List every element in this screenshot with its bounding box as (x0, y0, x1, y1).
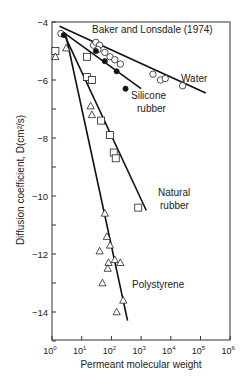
label-natural-rubber: rubber (160, 200, 190, 211)
data-point (111, 256, 118, 263)
data-point (162, 75, 168, 81)
data-point (87, 102, 94, 109)
data-point (106, 242, 113, 249)
y-axis-label: Diffusion coefficient, D(cm²/s) (15, 115, 26, 245)
data-points (52, 30, 186, 314)
x-tick-label: 106 (222, 345, 236, 356)
data-point (98, 117, 105, 124)
data-point (114, 69, 119, 74)
data-point (96, 247, 103, 254)
label-silicone-rubber: rubber (137, 103, 167, 114)
axis-ticks: 100101102103104105106−4−6−8−10−12−14 (32, 17, 236, 357)
x-axis-label: Permeant molecular weight (80, 359, 201, 370)
label-silicone: Silicone (131, 90, 166, 101)
data-point (93, 48, 98, 53)
data-point (123, 86, 128, 91)
data-point (61, 32, 66, 37)
data-point (112, 155, 119, 162)
x-tick-label: 101 (73, 345, 87, 356)
fit-line-polystyrene (66, 37, 127, 321)
y-tick-label: −12 (32, 249, 48, 260)
y-tick-label: −10 (32, 191, 48, 202)
data-point (88, 111, 95, 118)
y-tick-label: −4 (37, 17, 48, 28)
label-water: Water (181, 73, 208, 84)
diffusion-chart: 100101102103104105106−4−6−8−10−12−14 Bak… (0, 0, 250, 384)
label-polystyrene: Polystyrene (132, 279, 185, 290)
data-point (83, 53, 90, 60)
y-tick-label: −6 (37, 75, 48, 86)
data-point (135, 204, 142, 211)
x-tick-label: 105 (192, 345, 206, 356)
data-point (117, 61, 123, 67)
y-tick-label: −14 (32, 307, 48, 318)
data-point (113, 308, 120, 315)
fit-line-silicone-rubber (61, 31, 141, 89)
annotation-baker-lonsdale: Baker and Lonsdale (1974) (92, 24, 213, 35)
data-point (102, 49, 108, 55)
x-tick-label: 104 (162, 345, 176, 356)
data-point (112, 57, 118, 63)
plot-frame (52, 22, 230, 340)
data-point (88, 77, 95, 84)
data-point (150, 71, 156, 77)
data-point (102, 59, 107, 64)
label-natural: Natural (158, 187, 190, 198)
y-tick-label: −8 (37, 133, 48, 144)
x-tick-label: 103 (132, 345, 146, 356)
data-point (107, 132, 114, 139)
x-tick-label: 102 (103, 345, 117, 356)
data-point (120, 297, 127, 304)
plot-border (52, 22, 230, 340)
data-point (101, 210, 108, 217)
data-point (99, 279, 106, 286)
x-tick-label: 100 (43, 345, 57, 356)
fit-lines (60, 26, 206, 320)
